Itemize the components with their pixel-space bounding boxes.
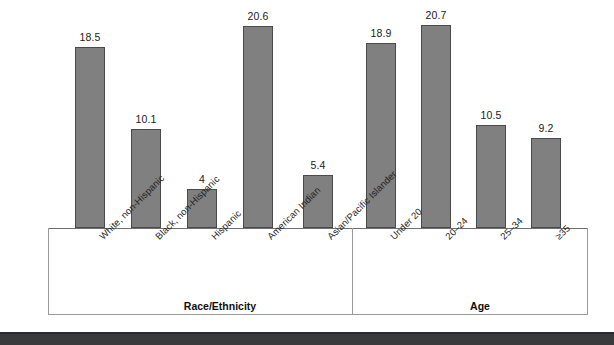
panel-group-divider bbox=[352, 228, 353, 315]
bar-value-label: 4 bbox=[172, 173, 232, 185]
bar bbox=[243, 26, 273, 228]
bar bbox=[75, 47, 105, 228]
plot-area: 18.510.1420.65.418.920.710.59.2 White, n… bbox=[0, 0, 614, 330]
axis-bottom-rule bbox=[48, 314, 588, 315]
bar bbox=[476, 125, 506, 228]
bar-value-label: 20.7 bbox=[406, 9, 466, 21]
bar-value-label: 20.6 bbox=[228, 10, 288, 22]
bar-value-label: 9.2 bbox=[516, 122, 576, 134]
axis-left-spine bbox=[48, 228, 49, 315]
bar-chart-figure: 18.510.1420.65.418.920.710.59.2 White, n… bbox=[0, 0, 614, 345]
bar-value-label: 10.5 bbox=[461, 109, 521, 121]
bar-value-label: 18.9 bbox=[351, 27, 411, 39]
bar-value-label: 5.4 bbox=[288, 159, 348, 171]
footer-band-shade bbox=[0, 332, 614, 334]
bar bbox=[531, 138, 561, 228]
bar-value-label: 18.5 bbox=[60, 31, 120, 43]
group-title-age: Age bbox=[400, 300, 560, 312]
group-title-race-ethnicity: Race/Ethnicity bbox=[140, 300, 300, 312]
axis-right-spine bbox=[587, 228, 588, 315]
bar-value-label: 10.1 bbox=[116, 113, 176, 125]
bar bbox=[421, 25, 451, 228]
